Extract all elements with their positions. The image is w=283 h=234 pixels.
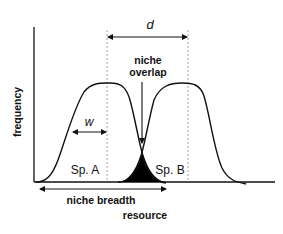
niche-overlap-label-line2: overlap <box>129 66 166 78</box>
niche-overlap-diagram: d niche overlap w Sp. A Sp. B niche brea… <box>0 0 283 234</box>
species-b-label: Sp. B <box>155 163 184 177</box>
y-axis-label: frequency <box>11 87 23 137</box>
niche-overlap-label-line1: niche <box>134 54 162 66</box>
w-label: w <box>85 115 95 129</box>
x-axis-label: resource <box>123 209 168 221</box>
species-a-label: Sp. A <box>71 163 100 177</box>
niche-breadth-label: niche breadth <box>67 194 136 206</box>
d-label: d <box>146 17 154 32</box>
